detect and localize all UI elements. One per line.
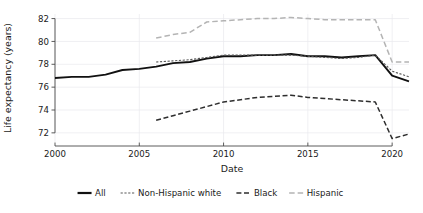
gridlines-group bbox=[55, 14, 409, 142]
x-tick-label: 2010 bbox=[213, 149, 235, 159]
y-axis-title: Life expectancy (years) bbox=[2, 23, 13, 133]
series-group bbox=[55, 17, 409, 138]
x-tick-label: 2020 bbox=[381, 149, 403, 159]
legend-label-all: All bbox=[95, 188, 106, 198]
chart-svg: 727476788082 20002005201020152020 Life e… bbox=[0, 0, 423, 213]
life-expectancy-chart: 727476788082 20002005201020152020 Life e… bbox=[0, 0, 423, 213]
y-tick-label: 74 bbox=[38, 105, 49, 115]
series-line-non-hispanic-white bbox=[156, 55, 409, 77]
y-tick-label: 80 bbox=[38, 37, 49, 47]
x-axis-title: Date bbox=[221, 163, 244, 174]
legend-label-black: Black bbox=[254, 188, 277, 198]
legend-label-hispanic: Hispanic bbox=[307, 188, 344, 198]
legend: AllNon-Hispanic whiteBlackHispanic bbox=[78, 188, 344, 198]
x-axis: 20002005201020152020 bbox=[44, 143, 403, 160]
y-tick-label: 72 bbox=[38, 128, 49, 138]
x-tick-label: 2000 bbox=[44, 149, 66, 159]
series-line-black bbox=[156, 95, 409, 138]
y-tick-label: 82 bbox=[38, 14, 49, 24]
y-tick-label: 78 bbox=[38, 59, 49, 69]
x-tick-label: 2015 bbox=[297, 149, 319, 159]
x-tick-label: 2005 bbox=[128, 149, 150, 159]
y-axis: 727476788082 bbox=[38, 14, 55, 138]
y-tick-label: 76 bbox=[38, 82, 49, 92]
series-line-all bbox=[55, 54, 409, 81]
legend-label-non-hispanic-white: Non-Hispanic white bbox=[138, 188, 221, 198]
